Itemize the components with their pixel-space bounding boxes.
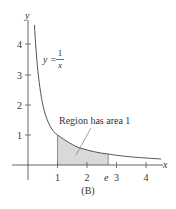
- x-axis-label: x: [162, 159, 168, 170]
- svg-text:1: 1: [58, 48, 63, 58]
- x-tick-label-2: 2: [85, 172, 90, 183]
- x-tick-label-4: 4: [144, 172, 149, 183]
- svg-text:y =: y =: [42, 54, 57, 65]
- shaded-region: [58, 135, 109, 165]
- svg-text:x: x: [57, 60, 62, 70]
- y-tick-label-4: 4: [17, 39, 22, 50]
- x-tick-label-e: e: [104, 172, 109, 183]
- x-tick-label-3: 3: [114, 172, 119, 183]
- y-tick-label-3: 3: [17, 70, 22, 81]
- y-axis-label: y: [24, 10, 30, 21]
- x-tick-label-1: 1: [55, 172, 60, 183]
- region-annotation: Region has area 1: [59, 115, 130, 126]
- figure-caption: (B): [0, 185, 176, 196]
- curve-y-equals-1-over-x: [35, 25, 162, 159]
- chart-figure: y x 1 2 3 4 1 2 e 3 4 y = 1 x Region has…: [0, 0, 176, 209]
- y-tick-label-2: 2: [17, 100, 22, 111]
- function-label: y = 1 x: [42, 48, 64, 70]
- y-tick-label-1: 1: [17, 130, 22, 141]
